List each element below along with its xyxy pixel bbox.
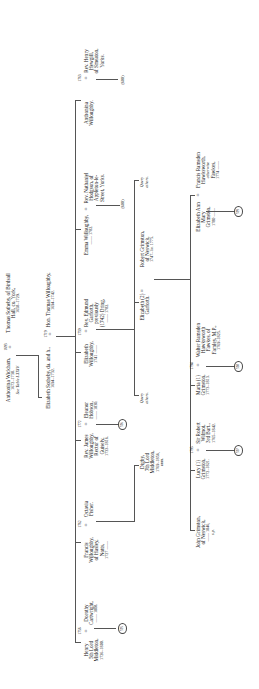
gen2-wife: Elizabeth Sotheby, da. and h., 1694–1732… [46, 338, 56, 418]
reference-600-b[interactable]: (600) [121, 74, 126, 86]
henry-issue-line-h [94, 628, 116, 629]
tick-henry [75, 642, 81, 643]
gen1-descent-line-2 [38, 355, 39, 397]
gen2-husband-dates: 1694–1742. [51, 267, 56, 333]
spouse-elizabeth-ann: Francis Ramsden Hawksworth, otherwise Fa… [196, 146, 221, 194]
equals-francis: = [84, 522, 89, 528]
gen2-husband: Hon. Thomas Willoughby, 1694–1742. [46, 267, 56, 333]
maria-issue-line [206, 366, 234, 367]
tick-james [75, 440, 81, 441]
reference-600-a[interactable]: (600) [121, 198, 126, 210]
query-others-1: Query others. [140, 388, 149, 408]
spouse-anthonina: Rev. Henry Hewgill, of Smeaton, Yorks. [84, 45, 105, 77]
reference-596[interactable]: 596 [118, 419, 127, 430]
reference-599[interactable]: 599 [234, 206, 243, 217]
child-anthonina: Anthonina Willoughby. [84, 98, 94, 128]
child-elizabeth: Elizabeth Willoughby, 1741 —— [84, 339, 99, 369]
tick-anthonina [75, 100, 81, 101]
emma-issue-line [96, 205, 120, 206]
gen2-wife-dates: 1694–1732. [51, 338, 56, 418]
query-others-2: Query others. [140, 172, 149, 192]
gen1-husband-line3: 1658–1729. [16, 262, 21, 344]
grandchild-elizabeth-garforth: Elizabeth (2) = Garforth. [140, 280, 150, 330]
gen1-descent-line [16, 355, 38, 356]
elizabeth-issue-line [96, 329, 134, 330]
reference-598[interactable]: 598 [234, 361, 243, 372]
lucy-issue-line [206, 450, 234, 451]
spouse-henry: Dorothy Cartwright, —— 1808. [84, 596, 99, 630]
tick-elizabeth [75, 352, 81, 353]
grandchild-digby: Digby, 7th Lord Middleton, 1769–1856, un… [140, 446, 165, 478]
marriage-year-maria: 1794 [190, 360, 195, 372]
spouse-maria: Walter Ramsden Hawksworth Fawkes, of Far… [196, 316, 221, 364]
child-james: Rev. James Willoughby, Rector of Guisely… [84, 430, 109, 462]
grimston-issue-line [154, 279, 190, 280]
reference-595[interactable]: 595 [118, 623, 127, 634]
great-grandchild-maria: Maria (1) Grimston, 1773–1813. [196, 372, 211, 398]
spouse-james: Eleanor Hobson, —— 1830. [84, 396, 99, 424]
great-grandchild-elizabeth-ann: Elizabeth Ann Mary Grimston, 1780 —— [196, 199, 216, 235]
james-issue-line [96, 424, 118, 425]
gen1-equals: = [8, 344, 13, 350]
great-grandchild-lucy: Lucy (1) Grimston, 1772–1821. [196, 456, 211, 482]
gen2-descent-line [56, 336, 75, 337]
elizabeth-ann-issue-line [206, 211, 234, 212]
gen1-wife: Anthonina Wickham, 1672–1738. See Table … [6, 348, 20, 412]
child-henry: Henry 5th Lord Middleton, 1726–1800. [84, 635, 104, 665]
spouse-elizabeth: Rev. Edmund Garforth, previously (1742) … [84, 296, 109, 330]
great-grandchild-john: John Grimston, of Neswick, —— 1846, s.p. [196, 508, 216, 556]
anthonina-issue-line [96, 79, 118, 80]
tick-emma [75, 229, 81, 230]
spouse-robert-grimston: Robert Grimston, of Neswick, 1747–liv. 1… [140, 219, 155, 279]
digby-bar [134, 465, 135, 522]
spouse-lucy: Sir Robert Wilmot, 3rd Bart., 1765–1842. [196, 417, 216, 449]
garforth-bar [134, 180, 135, 395]
reference-597[interactable]: 597 [234, 445, 243, 456]
tick-francis [75, 542, 81, 543]
child-francis: Francis Willoughby, of Hasley, Notts, 17… [84, 534, 109, 566]
gen1-husband: Thomas Sotheby, of Birdsall Hall, co. Yo… [6, 262, 21, 344]
pedigree-page: Anthonina Wickham, 1672–1738. See Table … [0, 0, 259, 689]
gen1-descent-line-3 [38, 397, 42, 398]
francis-issue-line [96, 521, 134, 522]
spouse-emma: Rev. Nathaniel Hodgson, of Appleton-le- … [84, 168, 105, 208]
spouse-francis: Octavia Fisher. [84, 496, 94, 522]
child-emma: Emma Willoughby, —— 1782. [84, 212, 94, 258]
gen1-wife-note: See Table LXXIV. [16, 348, 21, 412]
children-sibling-bar [75, 100, 76, 643]
marriage-year-elizabeth: 1759 [78, 326, 83, 338]
